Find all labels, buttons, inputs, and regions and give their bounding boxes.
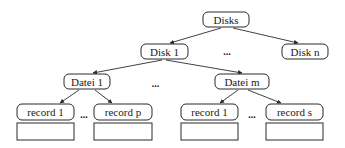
node-record-s: record s [266,104,323,140]
node-label: record p [105,106,142,118]
node-label: record 1 [191,106,227,118]
node-disk-n: Disk n [282,44,328,59]
edge-disks-diskn [233,28,298,43]
edge-datei1-record1 [60,90,79,103]
node-label: record 1 [27,106,63,118]
node-disks: Disks [203,12,249,27]
ellipsis-records-left: ... [80,109,88,120]
edge-disk1-datei1 [93,60,162,73]
svg-text:...: ... [152,78,160,89]
edge-dateim-record1 [220,90,238,103]
svg-text:...: ... [80,109,88,120]
ellipsis-disks: ... [223,46,231,57]
node-datei-m: Datei m [215,74,269,89]
svg-text:...: ... [223,46,231,57]
record-data-box [17,123,74,140]
tree-diagram: Disks Disk 1 ... Disk n Datei 1 ... Date… [0,0,345,148]
record-data-box [181,123,238,140]
record-data-box [266,123,323,140]
node-record-1-right: record 1 [181,104,238,140]
node-label: Disk n [290,46,320,58]
node-disk-1: Disk 1 [141,44,188,59]
node-label: record s [277,106,312,118]
node-label: Datei m [224,76,260,88]
node-label: Disks [213,14,238,26]
edge-disk1-dateim [166,60,242,73]
node-label: Disk 1 [150,46,179,58]
node-record-p: record p [94,104,152,140]
edge-disks-disk1 [170,28,221,43]
node-datei-1: Datei 1 [64,74,110,89]
edge-datei1-recordp [95,90,112,103]
record-data-box [94,123,152,140]
svg-text:...: ... [248,109,256,120]
ellipsis-dateien: ... [152,78,160,89]
edge-dateim-records [248,90,281,103]
node-label: Datei 1 [71,76,103,88]
ellipsis-records-right: ... [248,109,256,120]
node-record-1-left: record 1 [17,104,74,140]
